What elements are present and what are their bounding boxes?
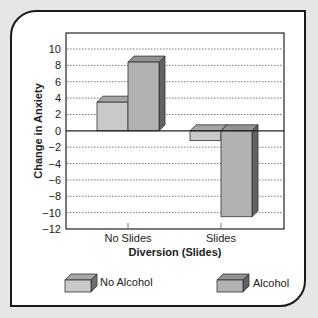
y-tick-label: −12 — [42, 223, 61, 235]
legend-swatch-icon — [217, 274, 249, 292]
x-axis-label: Diversion (Slides) — [129, 246, 222, 258]
y-tick-label: 0 — [55, 125, 61, 137]
y-tick-label: −6 — [48, 174, 61, 186]
legend: No Alcohol Alcohol — [65, 274, 289, 292]
y-tick-label: −10 — [42, 207, 61, 219]
y-axis-label: Change in Anxiety — [32, 82, 44, 178]
legend-label: No Alcohol — [100, 276, 153, 288]
legend-swatch-icon — [65, 274, 97, 292]
y-tick-label: −2 — [48, 141, 61, 153]
y-axis-ticks: 1086420−2−4−6−8−10−12 — [42, 43, 61, 235]
y-tick-label: 6 — [55, 76, 61, 88]
y-tick-label: 2 — [55, 108, 61, 120]
y-tick-label: 8 — [55, 59, 61, 71]
bar-alcohol-no-slides — [128, 56, 165, 131]
y-tick-label: −8 — [48, 190, 61, 202]
y-tick-label: −4 — [48, 158, 61, 170]
bar-alcohol-slides — [221, 125, 258, 217]
legend-label: Alcohol — [253, 277, 289, 289]
x-tick-label: Slides — [206, 232, 236, 244]
y-tick-label: 10 — [49, 43, 61, 55]
bar-chart: 1086420−2−4−6−8−10−12 No SlidesSlides Ch… — [0, 0, 318, 318]
y-tick-label: 4 — [55, 92, 61, 104]
x-tick-label: No Slides — [104, 232, 152, 244]
legend-item-alcohol: Alcohol — [217, 274, 289, 292]
legend-item-no-alcohol: No Alcohol — [65, 274, 153, 292]
